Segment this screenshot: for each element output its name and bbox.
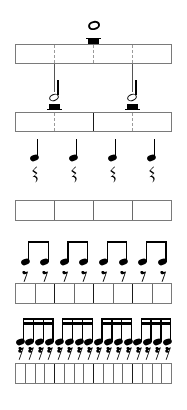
sixteenth-rest	[37, 346, 45, 359]
eighth-rest-glyph	[101, 271, 108, 282]
quarter-rest	[69, 166, 78, 183]
duration-cell	[93, 45, 132, 63]
sixteenth-note-stem	[111, 318, 112, 342]
sixteenth-rest-glyph	[86, 347, 94, 360]
duration-cell	[93, 284, 113, 303]
duration-cell	[132, 201, 171, 220]
eighth-note-stem	[67, 241, 68, 262]
sixteenth-rest-glyph	[144, 347, 152, 360]
sixteenth-rest	[86, 346, 94, 359]
sixteenth-beam-primary	[101, 318, 132, 321]
duration-cell	[16, 201, 54, 220]
eighth-rest	[42, 268, 49, 279]
half-note-stem	[135, 80, 136, 95]
sixteenth-rest-glyph	[66, 347, 74, 360]
sixteenth-rest-glyph	[37, 347, 45, 360]
duration-cell	[93, 201, 132, 220]
eighth-beam	[28, 241, 49, 244]
duration-cell	[16, 284, 35, 303]
eighth-rest-glyph	[81, 271, 88, 282]
sixteenth-rest-glyph	[56, 347, 64, 360]
rest-ledger-line	[125, 109, 140, 110]
duration-cell	[132, 113, 171, 131]
duration-cell	[35, 364, 45, 383]
quarter-rest-glyph	[147, 166, 156, 183]
sixteenth-beam-primary	[141, 318, 172, 321]
duration-cell	[54, 113, 93, 131]
rest-ledger-line	[47, 109, 62, 110]
whole-note-head	[87, 19, 101, 30]
sixteenth-note-stem	[43, 318, 44, 342]
sixteenth-note-stem	[141, 318, 142, 342]
duration-box-whole	[15, 44, 172, 64]
sixteenth-rest-glyph	[17, 347, 25, 360]
duration-cell	[161, 364, 171, 383]
sixteenth-rest-glyph	[76, 347, 84, 360]
sixteenth-rest-glyph	[95, 347, 103, 360]
quarter-note-stem	[115, 139, 116, 158]
sixteenth-note-stem	[33, 318, 34, 342]
sixteenth-note-stem	[92, 318, 93, 342]
eighth-rest	[120, 268, 127, 279]
eighth-rest	[140, 268, 147, 279]
eighth-beam	[107, 241, 128, 244]
quarter-rest-glyph	[69, 166, 78, 183]
duration-box-eighth	[15, 283, 172, 304]
duration-cell	[35, 284, 55, 303]
sixteenth-beam-secondary	[62, 322, 93, 325]
duration-cell	[64, 364, 74, 383]
sixteenth-beam-secondary	[141, 322, 172, 325]
eighth-note-stem	[146, 241, 147, 262]
sixteenth-rest	[125, 346, 133, 359]
duration-cell	[16, 364, 25, 383]
sixteenth-rest-glyph	[125, 347, 133, 360]
eighth-rest-glyph	[140, 271, 147, 282]
sixteenth-rest-glyph	[115, 347, 123, 360]
duration-cell	[132, 364, 142, 383]
eighth-rest	[81, 268, 88, 279]
quarter-rest	[30, 166, 39, 183]
duration-cell	[83, 364, 93, 383]
eighth-rest-glyph	[62, 271, 69, 282]
quarter-note-stem	[154, 139, 155, 158]
duration-box-half	[15, 112, 172, 132]
duration-cell	[54, 284, 74, 303]
duration-cell	[16, 113, 54, 131]
half-note-stem	[57, 80, 58, 95]
quarter-rest-glyph	[108, 166, 117, 183]
eighth-note-stem	[107, 241, 108, 262]
sixteenth-beam-secondary	[101, 322, 132, 325]
sixteenth-rest-glyph	[46, 347, 54, 360]
sixteenth-rest	[56, 346, 64, 359]
duration-cell	[54, 201, 93, 220]
sixteenth-rest	[76, 346, 84, 359]
sixteenth-rest	[115, 346, 123, 359]
connector-line-1	[54, 64, 55, 92]
sixteenth-rest-glyph	[27, 347, 35, 360]
sixteenth-note-stem	[150, 318, 151, 342]
eighth-note-stem	[126, 241, 127, 262]
duration-cell	[74, 364, 84, 383]
duration-cell	[113, 364, 123, 383]
eighth-rest-glyph	[22, 271, 29, 282]
eighth-beam	[67, 241, 88, 244]
duration-cell	[54, 364, 64, 383]
duration-cell	[152, 364, 162, 383]
duration-cell	[93, 113, 132, 131]
duration-cell	[132, 45, 171, 63]
duration-cell	[122, 364, 132, 383]
sixteenth-rest	[17, 346, 25, 359]
sixteenth-rest	[66, 346, 74, 359]
rest-ledger-line	[86, 38, 101, 39]
rhythm-tree-diagram	[0, 0, 187, 410]
connector-line-2	[132, 64, 133, 92]
sixteenth-note-stem	[72, 318, 73, 342]
sixteenth-rest-glyph	[154, 347, 162, 360]
eighth-note-stem	[165, 241, 166, 262]
sixteenth-rest	[46, 346, 54, 359]
eighth-rest-glyph	[42, 271, 49, 282]
sixteenth-rest	[164, 346, 172, 359]
duration-cell	[74, 284, 94, 303]
sixteenth-note-stem	[52, 318, 53, 342]
sixteenth-beam-primary	[62, 318, 93, 321]
